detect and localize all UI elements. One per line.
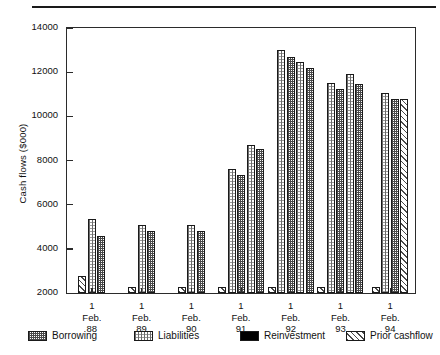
y-tick-label: 6000 (37, 198, 58, 209)
y-tick-label: 12000 (32, 65, 58, 76)
y-axis-title: Cash flows ($000) (17, 84, 28, 244)
legend-item-liabilities: Liabilities (134, 330, 199, 341)
legend-item-borrowing: Borrowing (28, 330, 97, 341)
bar-prior-cashflow (268, 287, 276, 293)
bar-prior-cashflow (372, 287, 380, 293)
chart-figure: Cash flows ($000) 2000400060008000100001… (0, 0, 440, 355)
y-tick-mark (67, 293, 73, 294)
bar-borrowing (306, 68, 314, 293)
legend-swatch-solid-black (240, 331, 259, 341)
y-tick-label: 4000 (37, 242, 58, 253)
bar-borrowing (355, 84, 363, 293)
legend-label: Borrowing (52, 330, 97, 341)
chart-legend: BorrowingLiabilitiesReinvestmentPrior ca… (28, 330, 438, 346)
x-tick-mark (191, 288, 192, 293)
legend-label: Prior cashflow (370, 330, 433, 341)
legend-label: Liabilities (158, 330, 199, 341)
bar-borrowing (237, 175, 245, 293)
bar-prior-cashflow (218, 287, 226, 293)
bar-borrowing (256, 149, 264, 293)
bar-borrowing (336, 89, 344, 293)
legend-swatch-vertical-dotted (134, 331, 153, 341)
y-tick-label: 8000 (37, 154, 58, 165)
x-tick-mark (340, 288, 341, 293)
bar-liabilities (381, 93, 389, 293)
bar-borrowing (287, 57, 295, 293)
bar-prior-cashflow (178, 287, 186, 293)
bar-prior-cashflow (317, 287, 325, 293)
legend-swatch-checkerboard (28, 331, 47, 341)
x-tick-mark (290, 288, 291, 293)
bar-liabilities (247, 145, 255, 293)
bar-liabilities (277, 50, 285, 293)
y-tick-mark (67, 116, 73, 117)
x-tick-mark (91, 288, 92, 293)
bar-prior-cashflow (128, 287, 136, 293)
y-tick-mark (67, 28, 73, 29)
bar-liabilities (228, 169, 236, 293)
header-rule (32, 6, 436, 8)
bar-borrowing (197, 231, 205, 293)
bar-prior-cashflow (400, 99, 408, 293)
bar-liabilities (346, 74, 354, 293)
y-tick-label: 14000 (32, 21, 58, 32)
bar-prior-cashflow (78, 276, 86, 293)
x-tick-mark (241, 288, 242, 293)
bar-liabilities (88, 219, 96, 293)
bar-borrowing (97, 236, 105, 293)
y-tick-label: 10000 (32, 109, 58, 120)
bar-liabilities (138, 225, 146, 293)
plot-inner: 20004000600080001000012000140001Feb.881F… (67, 28, 415, 293)
bar-liabilities (187, 225, 195, 293)
y-tick-label: 2000 (37, 286, 58, 297)
bar-borrowing (391, 99, 399, 293)
x-tick-mark (141, 288, 142, 293)
bar-borrowing (147, 231, 155, 293)
bar-liabilities (296, 62, 304, 293)
bar-liabilities (327, 83, 335, 293)
legend-swatch-diagonal-hatch (346, 331, 365, 341)
y-tick-mark (67, 204, 73, 205)
legend-item-prior-cashflow: Prior cashflow (346, 330, 433, 341)
y-tick-mark (67, 160, 73, 161)
x-tick-mark (390, 288, 391, 293)
legend-label: Reinvestment (264, 330, 325, 341)
plot-area: 20004000600080001000012000140001Feb.881F… (66, 27, 416, 294)
legend-item-reinvestment: Reinvestment (240, 330, 325, 341)
y-tick-mark (67, 72, 73, 73)
y-tick-mark (67, 248, 73, 249)
